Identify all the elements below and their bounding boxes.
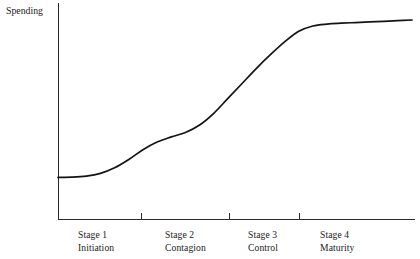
stage-4-subtitle: Maturity [320, 242, 354, 253]
stage-4-name: Stage 4 [320, 229, 349, 240]
figure-canvas: Spending Stage 1 Initiation Stage 2 Cont… [0, 0, 420, 259]
y-axis-label: Spending [6, 5, 43, 16]
stage-1-name: Stage 1 [78, 229, 107, 240]
stage-2-name: Stage 2 [165, 229, 194, 240]
stage-3-name: Stage 3 [248, 229, 277, 240]
stage-2-subtitle: Contagion [165, 242, 206, 253]
spending-stages-chart: Spending Stage 1 Initiation Stage 2 Cont… [0, 0, 420, 259]
spending-curve [58, 20, 412, 177]
stage-1-subtitle: Initiation [78, 242, 114, 253]
stage-3-subtitle: Control [248, 242, 278, 253]
